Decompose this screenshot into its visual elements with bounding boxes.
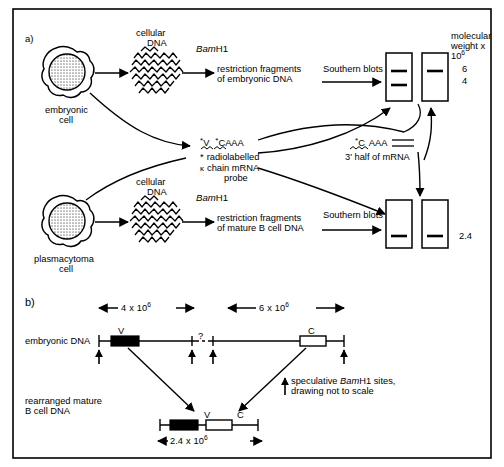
mw-label-line2: weight x (450, 41, 485, 51)
arrow-v-rearrangement (128, 348, 194, 411)
svg-text:*V*CAAA: *V*CAAA (200, 136, 245, 148)
embryonic-cell-nucleus (49, 54, 85, 90)
southern-blots-label-row1: Southern blots (323, 64, 383, 74)
southern-blots-label-row2: Southern blots (323, 210, 383, 220)
probe-legend-line2: κchain mRNA (200, 163, 260, 173)
bamh1-legend-line2: drawing not to scale (291, 386, 374, 396)
enzyme-italic-row1: Bam (196, 43, 216, 54)
mature-cellular-dna-icon (130, 196, 183, 242)
enzyme-italic-row2: Bam (196, 192, 216, 203)
probe-legend-line3: probe (224, 173, 248, 183)
blot-lane-embryonic-2 (422, 53, 448, 101)
embryonic-cellular-dna-icon (130, 47, 183, 93)
fragments-mature-line1: restriction fragments (217, 213, 302, 223)
kappa-mrna-probe-label: *V*CAAA (200, 136, 245, 149)
rearranged-dna-map: V C (160, 410, 258, 431)
mw-value-lower: 2.4 (459, 231, 472, 241)
c-gene-label-embryonic: C (308, 326, 315, 336)
v-gene-segment-rearranged (170, 420, 198, 430)
mw-value-6: 6 (462, 64, 467, 74)
rearranged-dna-label-line1: rearranged mature (25, 396, 102, 406)
scale-bar-2p4e6: 2.4x106 (158, 433, 262, 448)
svg-text:4x106: 4x106 (121, 301, 151, 313)
c-gene-label-rearranged: C (237, 410, 244, 420)
probe-legend-line1: *radiolabelled (200, 152, 259, 162)
panel-b-label: b) (25, 296, 35, 308)
mw-label-exponent: 106 (451, 49, 465, 61)
unknown-distance-marker: ? (198, 331, 203, 341)
fragments-mature-line2: of mature B cell DNA (217, 223, 305, 233)
embryonic-cell-label-line1: embryonic (45, 105, 88, 115)
embryonic-cell-label-line2: cell (59, 115, 73, 125)
blot-lane-mature-1 (386, 200, 412, 248)
svg-text:2.4x106: 2.4x106 (170, 434, 208, 446)
enzyme-label-row2: BamH1 (196, 192, 228, 203)
embryonic-cell-icon (42, 47, 94, 98)
c-gene-segment-rearranged (206, 420, 232, 430)
arrow-embryonic-cell-to-probe (90, 93, 190, 146)
blot-lane-embryonic-1 (386, 53, 412, 101)
arrow-half-to-blot-curve (404, 104, 420, 132)
plasmacytoma-cell-label-line1: plasmacytoma (34, 254, 95, 264)
arrow-probe-to-mature-blot (258, 168, 385, 214)
bamh1-legend: speculative BamH1 sites, drawing not to … (285, 376, 395, 396)
half-tail: AAA (369, 138, 388, 148)
arrow-half-to-lower-blot (418, 152, 420, 196)
fragments-embryonic-line2: of embryonic DNA (217, 74, 293, 84)
mw-value-4: 4 (462, 76, 467, 86)
embryonic-dna-map-label: embryonic DNA (25, 336, 91, 346)
enzyme-plain-row1: H1 (216, 43, 228, 54)
enzyme-plain-row2: H1 (216, 192, 228, 203)
panel-a-label: a) (25, 33, 33, 44)
blot-lane-mature-2 (422, 200, 448, 248)
immunoglobulin-rearrangement-diagram: a) embryonic cell cellular DNA BamH1 res… (0, 0, 504, 467)
v-gene-label-rearranged: V (204, 410, 211, 420)
svg-text:6x106: 6x106 (259, 301, 289, 313)
half-mrna-caption: 3' half of mRNA (345, 152, 411, 162)
mature-dna-label-line2: DNA (147, 187, 167, 197)
plasmacytoma-cell-icon (42, 196, 94, 247)
embryonic-dna-label-line2: DNA (147, 38, 167, 48)
mw-label-line1: molecular (451, 31, 491, 41)
svg-text:*CAAA: *CAAA (355, 136, 388, 148)
v-gene-segment-embryonic (111, 336, 139, 346)
plasmacytoma-cell-nucleus (49, 203, 85, 239)
c-gene-segment-embryonic (300, 336, 326, 346)
scale-bar-4e6: 4x106 (99, 300, 194, 315)
probe-tail: AAA (225, 138, 244, 148)
enzyme-label-row1: BamH1 (196, 43, 228, 54)
rearranged-dna-label-line2: B cell DNA (25, 406, 71, 416)
mature-dna-label-line1: cellular (136, 177, 165, 187)
embryonic-dna-label-line1: cellular (136, 28, 165, 38)
fragments-embryonic-line1: restriction fragments (217, 64, 302, 74)
bamh1-legend-line1: speculative BamH1 sites, (291, 376, 395, 386)
embryonic-dna-map: ? V C (99, 326, 344, 364)
v-gene-label-embryonic: V (118, 326, 125, 336)
figure-container: a) embryonic cell cellular DNA BamH1 res… (0, 0, 504, 467)
plasmacytoma-cell-label-line2: cell (59, 264, 73, 274)
arrow-half-to-embryonic-blot2 (424, 108, 431, 160)
scale-bar-6e6: 6x106 (228, 300, 344, 315)
